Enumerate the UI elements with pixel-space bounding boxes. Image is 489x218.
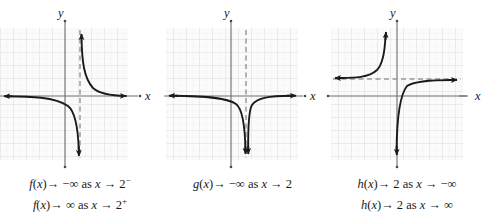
graph-g: y x xyxy=(160,0,325,172)
y-axis-endpoint-dot-bottom xyxy=(64,166,67,169)
caption-h-line-2-func: h xyxy=(361,198,367,212)
caption-g-line-1-approaches: → xyxy=(270,177,283,191)
caption-h-line-2-point: ∞ xyxy=(444,198,453,212)
y-axis-endpoint-dot-top xyxy=(396,20,399,23)
grid-lines xyxy=(166,28,298,160)
caption-g-line-1: g(x)→ −∞ as x → 2 xyxy=(160,172,325,193)
caption-f-line-2: f(x)→ ∞ as x → 2+ xyxy=(0,193,160,214)
caption-h: h(x)→ 2 as x → −∞ h(x)→ 2 as x → ∞ xyxy=(325,172,489,214)
x-axis-endpoint-dot-left xyxy=(327,95,330,98)
caption-h-line-1-arg: x xyxy=(368,177,374,191)
caption-f-line-1-var: x xyxy=(95,177,101,191)
caption-f-line-1: f(x)→ −∞ as x → 2− xyxy=(0,172,160,193)
caption-h-line-2-arg: x xyxy=(371,198,377,212)
y-axis-endpoint-dot-bottom xyxy=(396,166,399,169)
x-axis-label: x xyxy=(474,89,481,103)
caption-f-line-2-arrow: → xyxy=(50,198,63,212)
y-axis-endpoint-dot-top xyxy=(64,20,67,23)
caption-h-line-2-var: x xyxy=(420,198,426,212)
caption-f-line-2-approaches: → xyxy=(100,198,113,212)
caption-f-line-2-arg: x xyxy=(41,198,47,212)
caption-f-line-1-approaches: → xyxy=(104,177,117,191)
caption-h-line-1-as: as xyxy=(403,177,413,191)
caption-h-line-2-arrow: → xyxy=(381,198,394,212)
x-axis-label: x xyxy=(144,89,151,103)
caption-h-line-1-point: −∞ xyxy=(441,177,457,191)
caption-g-line-1-as: as xyxy=(248,177,258,191)
panel-h: y x h(x)→ 2 as x → −∞ h(x)→ 2 as x → ∞ xyxy=(325,0,489,218)
caption-h-line-2-as: as xyxy=(406,198,416,212)
graph-h: y x xyxy=(325,0,489,172)
x-axis-label: x xyxy=(309,89,316,103)
y-axis-endpoint-dot-top xyxy=(230,20,233,23)
caption-f-line-1-limit: −∞ xyxy=(62,177,78,191)
caption-g-line-1-var: x xyxy=(261,177,267,191)
x-axis-endpoint-dot xyxy=(139,95,142,98)
caption-f-line-1-arrow: → xyxy=(47,177,60,191)
caption-f-line-1-func: f xyxy=(29,177,32,191)
caption-h-line-1-limit: 2 xyxy=(393,177,399,191)
caption-h-line-1-approaches: → xyxy=(425,177,438,191)
caption-g-line-1-func: g xyxy=(193,177,199,191)
caption-h-line-1-func: h xyxy=(358,177,364,191)
caption-g-line-1-point: 2 xyxy=(286,177,292,191)
caption-f-line-2-side: + xyxy=(122,196,127,206)
caption-f-line-2-as: as xyxy=(78,198,88,212)
caption-g-line-1-arrow: → xyxy=(213,177,226,191)
caption-h-line-2-approaches: → xyxy=(428,198,441,212)
caption-f-line-1-as: as xyxy=(81,177,91,191)
caption-f-line-2-func: f xyxy=(33,198,36,212)
x-axis-endpoint-dot xyxy=(304,95,307,98)
caption-f-line-1-arg: x xyxy=(37,177,43,191)
caption-h-line-1-arrow: → xyxy=(378,177,391,191)
caption-h-line-2: h(x)→ 2 as x → ∞ xyxy=(325,193,489,214)
caption-h-line-1: h(x)→ 2 as x → −∞ xyxy=(325,172,489,193)
caption-f-line-2-var: x xyxy=(91,198,97,212)
y-axis-label: y xyxy=(56,6,64,20)
caption-h-line-2-limit: 2 xyxy=(397,198,403,212)
limits-figure: y x f(x)→ −∞ as x → 2− f(x)→ ∞ as x → 2+ xyxy=(0,0,489,218)
caption-g-line-1-limit: −∞ xyxy=(229,177,245,191)
y-axis-label: y xyxy=(222,6,230,20)
caption-g-line-1-arg: x xyxy=(203,177,209,191)
panel-g: y x g(x)→ −∞ as x → 2 xyxy=(160,0,325,218)
panel-f: y x f(x)→ −∞ as x → 2− f(x)→ ∞ as x → 2+ xyxy=(0,0,160,218)
caption-g: g(x)→ −∞ as x → 2 xyxy=(160,172,325,193)
y-axis-endpoint-dot-bottom xyxy=(230,166,233,169)
curve-h-up-arrow xyxy=(386,32,387,40)
caption-f: f(x)→ −∞ as x → 2− f(x)→ ∞ as x → 2+ xyxy=(0,172,160,214)
y-axis-label: y xyxy=(388,6,396,20)
caption-f-line-2-limit: ∞ xyxy=(66,198,75,212)
graph-f: y x xyxy=(0,0,160,172)
caption-h-line-1-var: x xyxy=(416,177,422,191)
caption-f-line-1-side: − xyxy=(126,175,131,185)
